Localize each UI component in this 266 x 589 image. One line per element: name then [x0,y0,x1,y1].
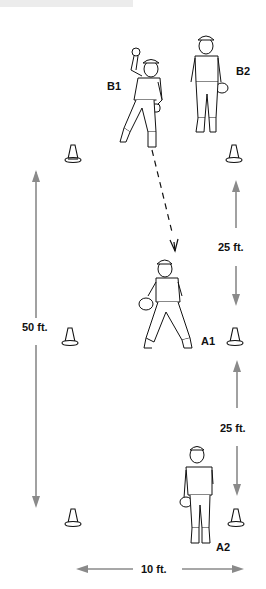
cone-icon [226,145,242,163]
label-lower-25-ft: 25 ft. [220,422,246,434]
label-b1: B1 [107,80,121,92]
throw-path-arrow [152,150,178,251]
cone-icon [65,509,81,527]
player-b2-figure [191,36,228,132]
label-upper-25-ft: 25 ft. [218,241,244,253]
label-50-ft: 50 ft. [22,321,48,333]
cone-icon [62,328,78,346]
player-a2-figure [180,447,213,544]
player-b1-figure [120,48,162,147]
drill-diagram [0,0,266,589]
label-a1: A1 [201,335,215,347]
label-b2: B2 [236,65,250,77]
cone-icon [227,328,243,346]
cone-icon [228,509,244,527]
label-10-ft: 10 ft. [141,563,167,575]
label-a2: A2 [216,541,230,553]
cone-icon [65,145,81,163]
player-a1-figure [139,260,192,348]
fifty-ft-arrow [32,170,40,508]
